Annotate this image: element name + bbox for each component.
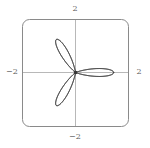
tick-label-bottom: −2: [0, 133, 150, 141]
plot-canvas: [0, 0, 150, 148]
polar-plot-figure: 2 −2 −2 2: [0, 0, 150, 148]
tick-label-right: 2: [129, 68, 149, 76]
tick-label-top: 2: [0, 5, 150, 13]
tick-label-left: −2: [2, 68, 22, 76]
